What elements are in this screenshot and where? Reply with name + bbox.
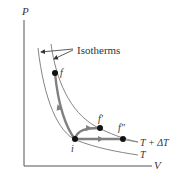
label-isotherm-t-dt: T + ΔT — [140, 137, 170, 148]
label-i: i — [71, 143, 74, 154]
pv-diagram: P V i f f′ f″ T + ΔT T Isotherms — [0, 0, 185, 185]
label-isotherm-t: T — [140, 149, 147, 160]
point-f — [52, 70, 58, 76]
point-f-double-prime — [120, 136, 126, 142]
state-points — [52, 70, 126, 142]
label-f: f — [60, 67, 64, 78]
isotherms-label: Isotherms — [77, 44, 120, 56]
annotation-arrow-left — [41, 49, 73, 52]
label-f-double-prime: f″ — [118, 122, 126, 133]
arrow-i-to-f-double-prime — [98, 136, 104, 142]
y-axis-label: P — [21, 5, 29, 17]
point-f-prime — [97, 125, 103, 131]
arrow-i-to-f-prime — [86, 125, 92, 131]
point-i — [72, 136, 78, 142]
annotation-arrow-right — [54, 50, 73, 59]
x-axis-label: V — [154, 159, 162, 171]
label-f-prime: f′ — [98, 113, 104, 124]
